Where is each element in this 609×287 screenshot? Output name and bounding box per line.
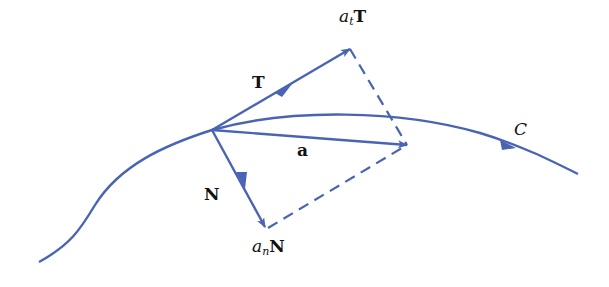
label-normal: N [204, 186, 220, 203]
acceleration-components-diagram: atT T a N anN C [0, 0, 609, 287]
label-tangential-component: atT [339, 8, 366, 27]
label-acceleration: a [297, 142, 308, 159]
label-normal-component: anN [252, 238, 285, 257]
acceleration-vector [212, 130, 407, 145]
vec-t: T [354, 6, 367, 26]
dashed-line-tangential [350, 49, 407, 145]
dashed-line-normal [268, 145, 407, 228]
coef-a: a [339, 6, 349, 26]
label-tangent: T [252, 74, 265, 91]
vec-n: N [269, 236, 285, 256]
label-curve: C [514, 121, 527, 138]
normal-vector [212, 130, 265, 227]
coef-a: a [252, 236, 262, 256]
